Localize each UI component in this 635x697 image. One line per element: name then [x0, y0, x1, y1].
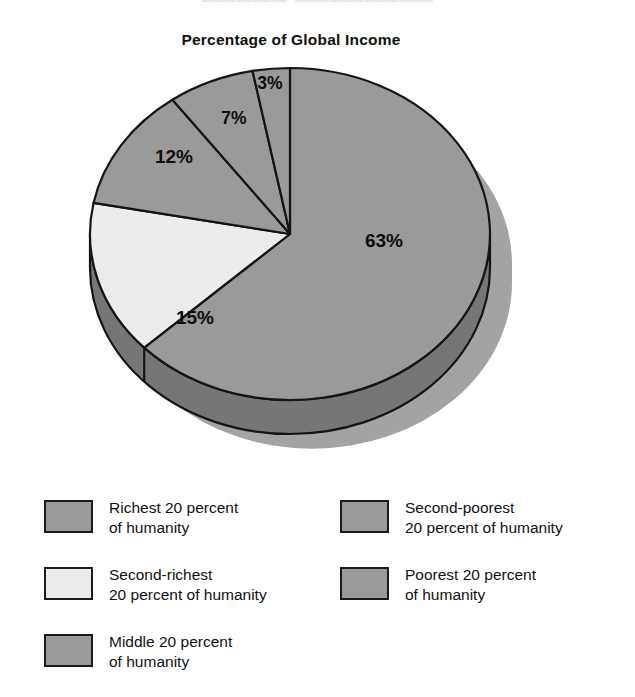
legend-swatch-second-poorest [340, 500, 389, 533]
pie-slice-label: 3% [257, 73, 283, 93]
legend-label-second-richest: Second-richest 20 percent of humanity [109, 565, 267, 604]
legend-swatch-middle [44, 634, 93, 667]
legend-swatch-richest [44, 500, 93, 533]
legend-label-middle: Middle 20 percent of humanity [109, 632, 232, 671]
pie-chart-graphic: 63%15%12%7%3% [0, 55, 635, 485]
legend-column-left: Richest 20 percent of humanity Second-ri… [44, 498, 340, 671]
legend-label-second-poorest: Second-poorest 20 percent of humanity [405, 498, 563, 537]
legend-column-right: Second-poorest 20 percent of humanity Po… [340, 498, 624, 671]
legend-swatch-poorest [340, 567, 389, 600]
chart-legend: Richest 20 percent of humanity Second-ri… [44, 498, 624, 671]
legend-item-middle[interactable]: Middle 20 percent of humanity [44, 632, 340, 671]
pie-slice-label: 15% [176, 307, 214, 328]
legend-item-richest[interactable]: Richest 20 percent of humanity [44, 498, 340, 537]
pie-slice-label: 12% [155, 146, 193, 167]
legend-item-poorest[interactable]: Poorest 20 percent of humanity [340, 565, 624, 604]
legend-swatch-second-richest [44, 567, 93, 600]
legend-item-second-richest[interactable]: Second-richest 20 percent of humanity [44, 565, 340, 604]
chart-title: Percentage of Global Income [0, 31, 582, 49]
legend-label-richest: Richest 20 percent of humanity [109, 498, 238, 537]
pie-slice-label: 7% [221, 108, 247, 128]
top-cutoff-text: █████ ████████ [0, 0, 635, 2]
chart-page: █████ ████████ Percentage of Global Inco… [0, 0, 635, 697]
legend-item-second-poorest[interactable]: Second-poorest 20 percent of humanity [340, 498, 624, 537]
legend-label-poorest: Poorest 20 percent of humanity [405, 565, 536, 604]
pie-slice-label: 63% [365, 230, 403, 251]
